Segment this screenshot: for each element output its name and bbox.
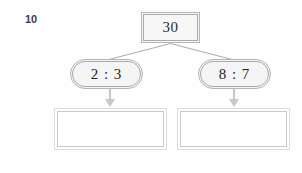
ratio-node-left-value: 2 : 3 [91,67,123,82]
down-arrow-icon-left [105,89,115,107]
question-number: 10 [25,14,37,25]
answer-box-right[interactable] [177,108,290,150]
down-arrow-icon-right [229,89,239,107]
ratio-node-right-inner: 8 : 7 [200,61,269,87]
ratio-node-left: 2 : 3 [70,59,143,89]
worksheet-canvas: 10 30 2 : 3 8 : 7 [0,0,302,173]
answer-box-right-value[interactable] [181,112,286,146]
ratio-node-left-inner: 2 : 3 [72,61,141,87]
answer-box-left-inner[interactable] [57,111,164,147]
answer-box-right-inner[interactable] [180,111,287,147]
ratio-node-right: 8 : 7 [198,59,271,89]
connector-line-right [171,44,235,61]
answer-box-left[interactable] [54,108,167,150]
total-node-inner: 30 [143,14,198,41]
ratio-node-right-value: 8 : 7 [219,67,251,82]
total-node: 30 [141,12,200,43]
answer-box-left-value[interactable] [58,112,163,146]
connector-line-left [107,44,171,61]
total-node-value: 30 [163,20,179,35]
